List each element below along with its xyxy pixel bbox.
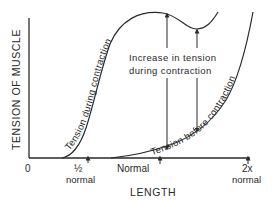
x-tick-half: ½ normal — [66, 158, 95, 185]
curve-during-text: Tension during contraction — [62, 36, 113, 152]
x-tick-half-top: ½ — [74, 163, 83, 174]
x-axis-label: LENGTH — [130, 186, 176, 198]
x-tick-double: 2x normal — [232, 158, 261, 185]
x-tick-half-bottom: normal — [66, 174, 95, 185]
x-tick-double-bottom: normal — [232, 174, 261, 185]
curve-during-label: Tension during contraction — [62, 36, 113, 152]
x-tick-normal-label: Normal — [117, 163, 149, 174]
y-axis-label: TENSION OF MUSCLE — [10, 29, 22, 150]
x-tick-normal: Normal — [117, 158, 160, 174]
origin-label: 0 — [25, 163, 31, 174]
muscle-tension-diagram: TENSION OF MUSCLE 0 ½ normal Normal 2x n… — [0, 0, 272, 200]
annotation-line-2: during contraction — [129, 65, 212, 76]
x-tick-double-top: 2x — [242, 163, 253, 174]
annotation-line-1: Increase in tension — [129, 52, 216, 63]
axes — [29, 18, 250, 158]
curve-before-text: Tension before contraction — [149, 74, 237, 157]
diagram-canvas: TENSION OF MUSCLE 0 ½ normal Normal 2x n… — [0, 0, 272, 200]
curve-before-label: Tension before contraction — [149, 74, 237, 157]
